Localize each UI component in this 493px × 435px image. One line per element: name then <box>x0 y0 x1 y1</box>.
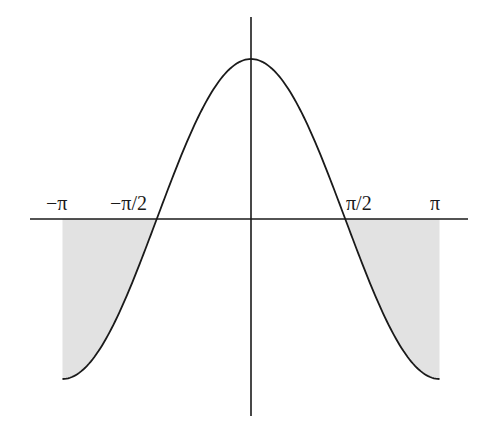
tick-label-pi: π <box>430 192 440 214</box>
shaded-region-right <box>345 219 439 379</box>
tick-label-half-pi: π/2 <box>346 192 372 214</box>
tick-label-neg-half-pi: −π/2 <box>110 192 147 214</box>
tick-label-neg-pi: −π <box>46 192 67 214</box>
cosine-chart: −π −π/2 π/2 π <box>0 0 493 435</box>
shaded-region-left <box>63 219 157 379</box>
